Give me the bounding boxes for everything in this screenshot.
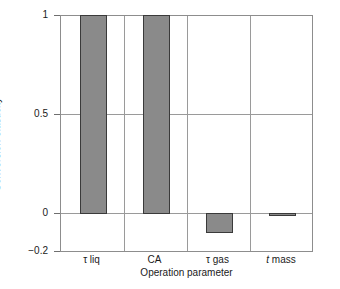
- y-tick-label-0: 0: [8, 207, 48, 218]
- x-tick-label-tau-liq: τ liq: [60, 254, 123, 265]
- category-separator-3: [250, 16, 251, 251]
- x-axis-title: Operation parameter: [60, 267, 313, 278]
- y-tick-label-0point5: 0.5: [8, 108, 48, 119]
- bar-tau-liq: [80, 15, 107, 214]
- bar-tau-gas: [206, 213, 233, 233]
- category-separator-2: [187, 16, 188, 251]
- x-tick-label-t-mass: t mass: [249, 254, 313, 265]
- plot-area: [60, 15, 313, 252]
- bar-t-mass: [269, 213, 296, 216]
- bar-chart-figure: Conversion elasticity Operation paramete…: [0, 0, 340, 289]
- category-separator-1: [124, 16, 125, 251]
- y-tick-label-1: 1: [8, 9, 48, 20]
- x-tick-label-ca: CA: [123, 254, 186, 265]
- x-tick-label-tau-gas: τ gas: [186, 254, 249, 265]
- bar-ca: [143, 15, 170, 214]
- y-tick-label-minus0point2: −0.2: [8, 245, 48, 256]
